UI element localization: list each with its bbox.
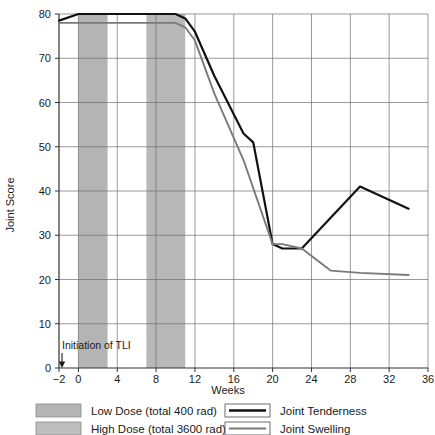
y-tick-label-3: 30 xyxy=(39,229,51,241)
y-tick-label-0: 0 xyxy=(45,362,51,374)
legend-swatch-band-2 xyxy=(36,422,81,435)
x-tick-label-10: 36 xyxy=(422,373,434,385)
annotation-label: Initiation of TLI xyxy=(62,339,131,351)
y-axis-title: Joint Score xyxy=(4,177,16,232)
y-tick-label-6: 60 xyxy=(39,97,51,109)
chart-canvas: −204812162024283236 01020304050607080 Jo… xyxy=(0,0,435,435)
y-tick-label-1: 10 xyxy=(39,318,51,330)
y-tick-labels: 01020304050607080 xyxy=(39,8,59,374)
x-tick-label-3: 8 xyxy=(153,373,159,385)
legend-label-band-2: High Dose (total 3600 rad) xyxy=(91,423,226,435)
legend-label-line-2: Joint Swelling xyxy=(280,423,350,435)
x-tick-label-8: 28 xyxy=(344,373,356,385)
chart-legend: Low Dose (total 400 rad)High Dose (total… xyxy=(36,404,367,435)
x-axis-title: Weeks xyxy=(211,384,245,396)
y-tick-label-4: 40 xyxy=(39,185,51,197)
legend-label-band-1: Low Dose (total 400 rad) xyxy=(91,405,217,417)
y-tick-label-8: 80 xyxy=(39,8,51,20)
legend-swatch-band-1 xyxy=(36,404,81,417)
x-tick-label-0: −2 xyxy=(53,373,66,385)
x-tick-label-9: 32 xyxy=(383,373,395,385)
legend-label-line-1: Joint Tenderness xyxy=(280,405,367,417)
joint-score-chart-figure: −204812162024283236 01020304050607080 Jo… xyxy=(0,0,435,435)
x-tick-label-4: 12 xyxy=(189,373,201,385)
y-tick-label-5: 50 xyxy=(39,141,51,153)
y-tick-label-2: 20 xyxy=(39,274,51,286)
annotation-arrow-head xyxy=(59,362,65,369)
grid-layer xyxy=(59,14,428,368)
x-tick-label-6: 20 xyxy=(267,373,279,385)
x-tick-label-7: 24 xyxy=(305,373,317,385)
x-tick-label-2: 4 xyxy=(114,373,120,385)
x-tick-label-1: 0 xyxy=(75,373,81,385)
x-tick-labels: −204812162024283236 xyxy=(53,368,434,385)
y-tick-label-7: 70 xyxy=(39,52,51,64)
